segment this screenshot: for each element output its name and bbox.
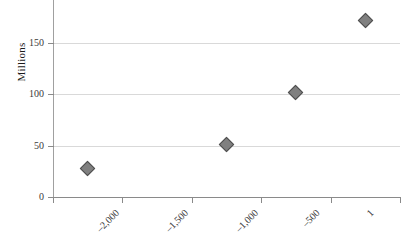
y-tick-mark [48, 94, 54, 95]
x-axis-line [53, 197, 401, 198]
x-tick-label: –1,500 [163, 207, 190, 234]
y-tick-mark [48, 43, 54, 44]
chart-container: Millions 050100150200 –2,000–1,500–1,000… [0, 0, 405, 238]
gridline [53, 94, 400, 95]
y-tick-label: 0 [2, 191, 44, 202]
x-tick-label: 1 [365, 207, 376, 218]
x-tick-mark [331, 198, 332, 203]
gridline [53, 43, 400, 44]
x-tick-label: –2,000 [94, 207, 121, 234]
x-tick-mark [122, 198, 123, 203]
x-tick-mark [53, 198, 54, 203]
x-tick-mark [192, 198, 193, 203]
x-tick-mark [261, 198, 262, 203]
y-tick-label: 50 [2, 140, 44, 151]
x-tick-mark [400, 198, 401, 203]
data-point-marker [288, 85, 304, 101]
y-tick-label: 100 [2, 88, 44, 99]
x-tick-label: –500 [300, 207, 322, 229]
data-point-marker [219, 137, 235, 153]
data-point-marker [358, 13, 374, 29]
data-point-marker [80, 160, 96, 176]
y-tick-mark [48, 146, 54, 147]
y-tick-label: 150 [2, 37, 44, 48]
x-tick-label: –1,000 [233, 207, 260, 234]
y-axis-line [53, 0, 54, 198]
